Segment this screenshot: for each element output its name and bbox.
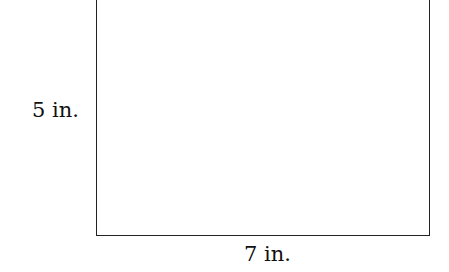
rectangle-shape bbox=[96, 0, 430, 236]
height-label: 5 in. bbox=[32, 100, 79, 121]
width-label: 7 in. bbox=[244, 244, 291, 265]
